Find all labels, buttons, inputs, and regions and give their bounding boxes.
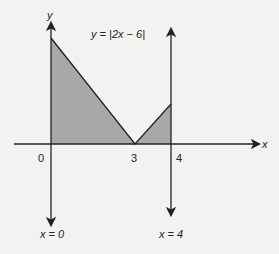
- tick-4: 4: [176, 152, 182, 164]
- tick-0: 0: [38, 152, 44, 164]
- graph-canvas: y x y = |2x − 6| 0 3 4 x = 0 x = 4: [0, 0, 279, 254]
- diagram: y x y = |2x − 6| 0 3 4 x = 0 x = 4: [0, 0, 279, 254]
- x-axis-label: x: [261, 138, 268, 150]
- x0-label: x = 0: [39, 228, 65, 240]
- y-axis-label: y: [46, 9, 54, 21]
- tick-3: 3: [131, 152, 137, 164]
- x4-label: x = 4: [158, 228, 183, 240]
- equation-label: y = |2x − 6|: [90, 28, 145, 40]
